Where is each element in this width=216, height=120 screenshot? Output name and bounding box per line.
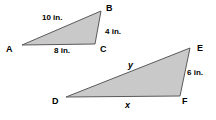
vertex-label-e: E [197, 44, 203, 53]
triangle-def-shape [66, 48, 190, 97]
vertex-label-a: A [6, 45, 13, 54]
side-label-df: x [125, 101, 130, 110]
vertex-label-f: F [182, 97, 188, 106]
vertex-label-d: D [52, 97, 59, 106]
side-label-ac: 8 in. [54, 47, 70, 55]
side-label-ab: 10 in. [42, 14, 62, 22]
side-label-bc: 4 in. [105, 28, 121, 36]
geometry-figure: A B C 10 in. 4 in. 8 in. D E F y 6 in. x [0, 0, 216, 120]
side-label-ef: 6 in. [187, 69, 203, 77]
side-label-de: y [128, 61, 133, 70]
vertex-label-c: C [100, 45, 107, 54]
vertex-label-b: B [106, 4, 113, 13]
